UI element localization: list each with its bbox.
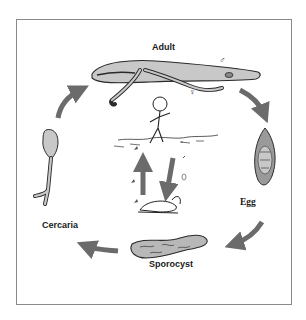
snail-icon	[138, 197, 180, 213]
cercaria-icon	[35, 130, 58, 205]
miracidium-icon	[182, 174, 186, 180]
arrow-egg-to-sporocyst-icon	[234, 222, 262, 244]
cercariae-larvae-icon	[131, 146, 138, 203]
cycle-arrows	[58, 90, 264, 251]
center-scene	[114, 97, 218, 213]
arrow-adult-to-egg-icon	[240, 90, 264, 114]
water-surface-icon	[118, 135, 218, 140]
arrow-sporocyst-to-cercaria-icon	[86, 246, 118, 251]
human-figure-icon	[150, 97, 170, 143]
water-ripples-icon	[114, 141, 204, 147]
miracidia-icon	[181, 142, 185, 158]
stage-label-egg: Egg	[240, 197, 256, 207]
arrow-down-icon	[167, 158, 173, 192]
stage-label-sporocyst: Sporocyst	[149, 259, 193, 269]
female-symbol-icon: ♀	[189, 87, 196, 97]
arrow-cercaria-to-adult-icon	[58, 90, 80, 118]
egg-icon	[255, 128, 275, 185]
sporocyst-icon	[131, 235, 207, 258]
male-symbol-icon: ♂	[219, 55, 226, 65]
stage-label-adult: Adult	[152, 42, 175, 52]
truncated-caption	[16, 313, 292, 320]
stage-label-cercaria: Cercaria	[42, 220, 78, 230]
adult-worm-icon: ♂ ♀	[92, 55, 260, 105]
